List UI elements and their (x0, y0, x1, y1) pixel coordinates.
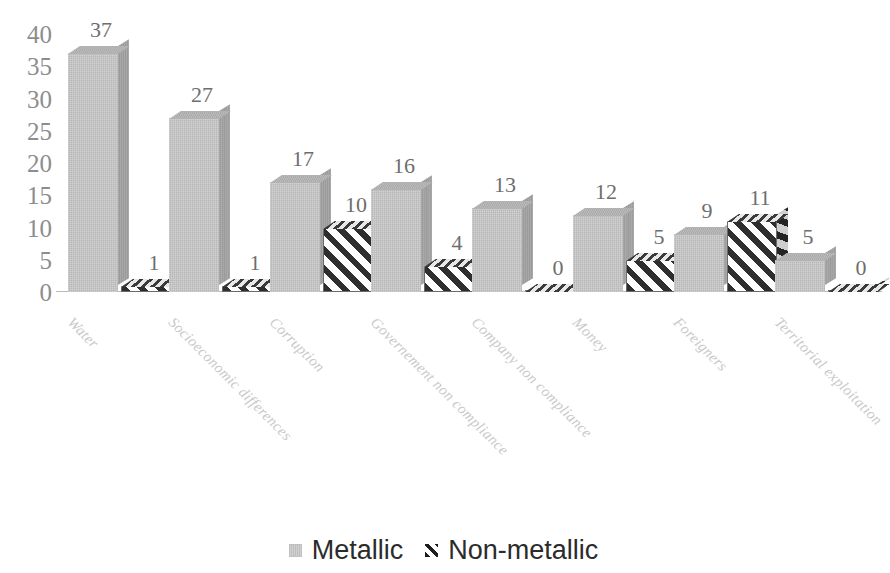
bar-non-metallic (323, 228, 373, 293)
bar-metallic (371, 189, 421, 292)
y-axis-tick-label: 40 (6, 22, 52, 47)
data-label-metallic: 27 (191, 84, 213, 106)
data-label-non-metallic: 1 (149, 252, 160, 274)
category-label: Money (569, 314, 611, 356)
category-label: Corruption (266, 314, 328, 376)
bar-side-face (118, 39, 129, 285)
bar-front-face (674, 234, 724, 292)
data-label-non-metallic: 0 (856, 257, 867, 279)
bar-front-face (169, 118, 219, 292)
bar-group (573, 0, 674, 300)
x-axis-category-labels: WaterSocioeconomic differencesCorruption… (56, 300, 887, 520)
bar-front-face (626, 260, 676, 292)
y-axis-tick-label: 35 (6, 54, 52, 79)
bar-group (674, 0, 775, 300)
bar-front-face (68, 53, 118, 292)
bar-front-face (472, 208, 522, 292)
data-label-metallic: 5 (803, 226, 814, 248)
data-label-metallic: 37 (90, 19, 112, 41)
data-label-non-metallic: 1 (250, 252, 261, 274)
data-label-non-metallic: 10 (345, 194, 367, 216)
bar-non-metallic (222, 286, 272, 292)
metallic-swatch-icon (289, 544, 302, 557)
chart-legend: Metallic Non-metallic (0, 528, 887, 573)
data-label-non-metallic: 5 (654, 226, 665, 248)
y-axis-tick-label: 10 (6, 215, 52, 240)
bar-metallic (674, 234, 724, 292)
data-label-metallic: 17 (292, 148, 314, 170)
bar-group (270, 0, 371, 300)
bar-side-face (825, 246, 836, 285)
data-label-metallic: 9 (702, 200, 713, 222)
data-label-metallic: 13 (494, 174, 516, 196)
y-axis-tick-label: 15 (6, 183, 52, 208)
bar-non-metallic (727, 221, 777, 292)
nonmetallic-hatch-swatch-icon (425, 544, 438, 557)
bar-metallic (270, 182, 320, 292)
bar-non-metallic (121, 286, 171, 292)
y-axis-tick-label: 20 (6, 151, 52, 176)
plot-area: 371271171016413012591150 (56, 0, 887, 300)
data-label-metallic: 16 (393, 155, 415, 177)
y-axis: 4035302520151050 (0, 0, 52, 573)
y-axis-tick-label: 0 (6, 280, 52, 305)
y-axis-tick-label: 5 (6, 247, 52, 272)
bar-metallic (472, 208, 522, 292)
bar-front-face (424, 266, 474, 292)
y-axis-tick-label: 25 (6, 118, 52, 143)
category-label: Territorial exploitation (771, 314, 886, 429)
data-label-non-metallic: 11 (749, 187, 770, 209)
bar-non-metallic (626, 260, 676, 292)
legend-item-metallic[interactable]: Metallic (289, 537, 404, 564)
bar-metallic (169, 118, 219, 292)
bar-front-face (727, 221, 777, 292)
legend-label-metallic: Metallic (312, 537, 404, 564)
data-label-non-metallic: 0 (553, 257, 564, 279)
y-axis-tick-label: 30 (6, 86, 52, 111)
bar-front-face (573, 215, 623, 292)
bar-side-face (219, 104, 230, 285)
bar-front-face (270, 182, 320, 292)
bar-front-face (775, 260, 825, 292)
bar-non-metallic (424, 266, 474, 292)
bar-metallic (68, 53, 118, 292)
data-label-non-metallic: 4 (452, 232, 463, 254)
legend-item-non-metallic[interactable]: Non-metallic (425, 537, 598, 564)
bar-front-face (323, 228, 373, 293)
bar-front-face (371, 189, 421, 292)
bar-non-metallic (525, 291, 575, 293)
bar-metallic (775, 260, 825, 292)
legend-label-non-metallic: Non-metallic (448, 537, 598, 564)
bar-non-metallic (828, 291, 878, 293)
category-label: Foreigners (670, 314, 731, 375)
data-label-metallic: 12 (595, 181, 617, 203)
category-label: Water (64, 314, 102, 352)
bar-metallic (573, 215, 623, 292)
